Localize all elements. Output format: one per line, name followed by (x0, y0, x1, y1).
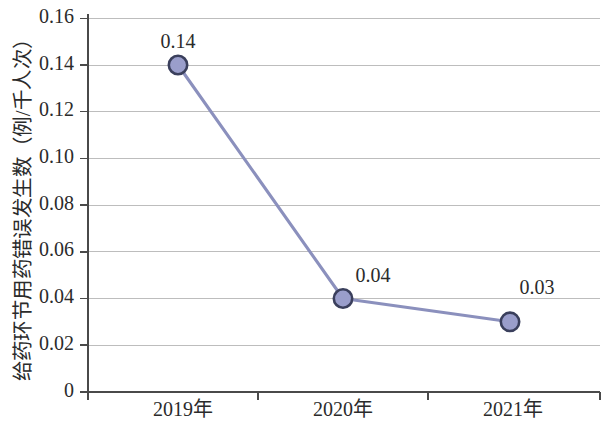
y-tick-label-6: 0.12 (39, 98, 74, 120)
y-tick-label-2: 0.04 (39, 285, 74, 307)
line-chart: 0.16 0.14 0.12 0.10 0.08 0.06 0.04 0.02 … (0, 0, 605, 430)
y-axis-tick-labels: 0.16 0.14 0.12 0.10 0.08 0.06 0.04 0.02 … (39, 5, 74, 401)
x-tick-label-2019: 2019年 (153, 398, 213, 420)
y-tick-label-5: 0.10 (39, 145, 74, 167)
y-axis-ticks (80, 18, 88, 392)
y-tick-label-3: 0.06 (39, 238, 74, 260)
data-point-marker-2021[interactable] (501, 313, 519, 331)
x-tick-label-2021: 2021年 (483, 398, 543, 420)
data-point-marker-2020[interactable] (334, 289, 352, 307)
y-tick-label-1: 0.02 (39, 332, 74, 354)
series-line-path (178, 65, 510, 322)
data-point-markers (169, 56, 519, 331)
x-axis-tick-labels: 2019年 2020年 2021年 (153, 398, 543, 420)
y-tick-label-4: 0.08 (39, 192, 74, 214)
data-label-2020: 0.04 (356, 264, 391, 286)
data-point-labels: 0.14 0.04 0.03 (161, 30, 555, 298)
data-label-2019: 0.14 (161, 30, 196, 52)
y-tick-label-7: 0.14 (39, 52, 74, 74)
y-tick-label-8: 0.16 (39, 5, 74, 27)
data-point-marker-2019[interactable] (169, 56, 187, 74)
data-label-2021: 0.03 (520, 276, 555, 298)
y-tick-label-0: 0 (64, 379, 74, 401)
y-axis-title: 给药环节用药错误发生数（例/千人次） (12, 29, 34, 382)
chart-page: 0.16 0.14 0.12 0.10 0.08 0.06 0.04 0.02 … (0, 0, 605, 430)
x-tick-label-2020: 2020年 (313, 398, 373, 420)
